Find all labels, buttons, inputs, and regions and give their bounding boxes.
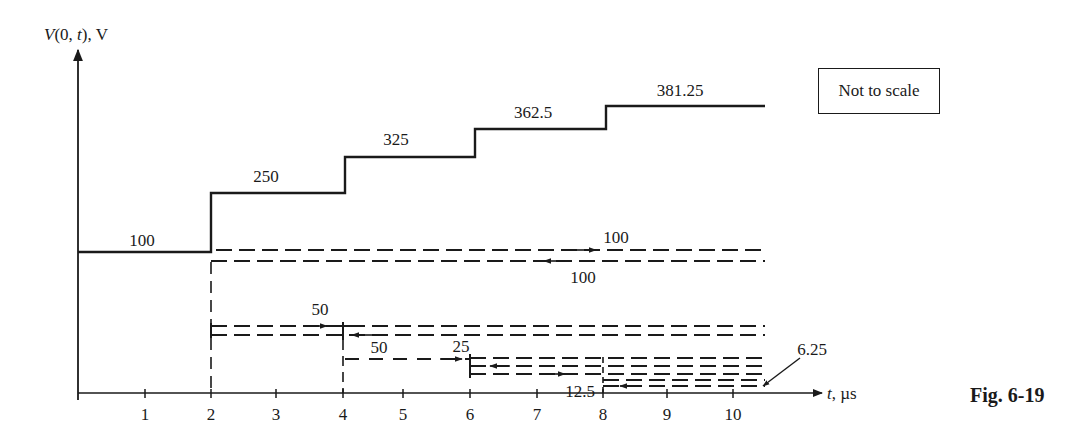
x-axis [78, 389, 822, 398]
step-label: 100 [129, 231, 155, 250]
wave-label: 100 [603, 228, 629, 247]
step-label: 362.5 [514, 103, 552, 122]
y-axis-title: V(0, t), V [44, 25, 109, 44]
wave-label: 25 [453, 337, 470, 356]
figure-canvas: 1 2 3 4 5 6 7 8 9 10 V(0, t), V t, µs 10… [0, 0, 1067, 446]
x-axis-title: t, µs [827, 384, 857, 403]
figure-caption: Fig. 6-19 [970, 384, 1044, 407]
leader-arrow-icon [763, 358, 800, 386]
tick-label: 3 [272, 405, 281, 424]
tick-label: 2 [207, 405, 216, 424]
wave-label: 50 [312, 300, 329, 319]
tick-label: 1 [141, 405, 150, 424]
wave-components [211, 250, 765, 393]
voltage-staircase [78, 106, 765, 252]
tick-label: 10 [725, 405, 742, 424]
tick-label: 5 [399, 405, 408, 424]
tick-label: 7 [533, 405, 542, 424]
tick-label: 6 [466, 405, 475, 424]
tick-label: 4 [339, 405, 348, 424]
wave-label: 12.5 [565, 382, 595, 401]
tick-label: 8 [599, 405, 608, 424]
tick-label: 9 [663, 405, 672, 424]
not-to-scale-note: Not to scale [818, 68, 940, 114]
junction-markers [211, 322, 470, 378]
wave-label: 50 [371, 338, 388, 357]
step-label: 381.25 [657, 81, 704, 100]
x-tick-labels: 1 2 3 4 5 6 7 8 9 10 [141, 405, 742, 424]
wave-label: 100 [570, 268, 596, 287]
step-label: 250 [253, 167, 279, 186]
step-label: 325 [383, 130, 409, 149]
wave-label: 6.25 [797, 340, 827, 359]
